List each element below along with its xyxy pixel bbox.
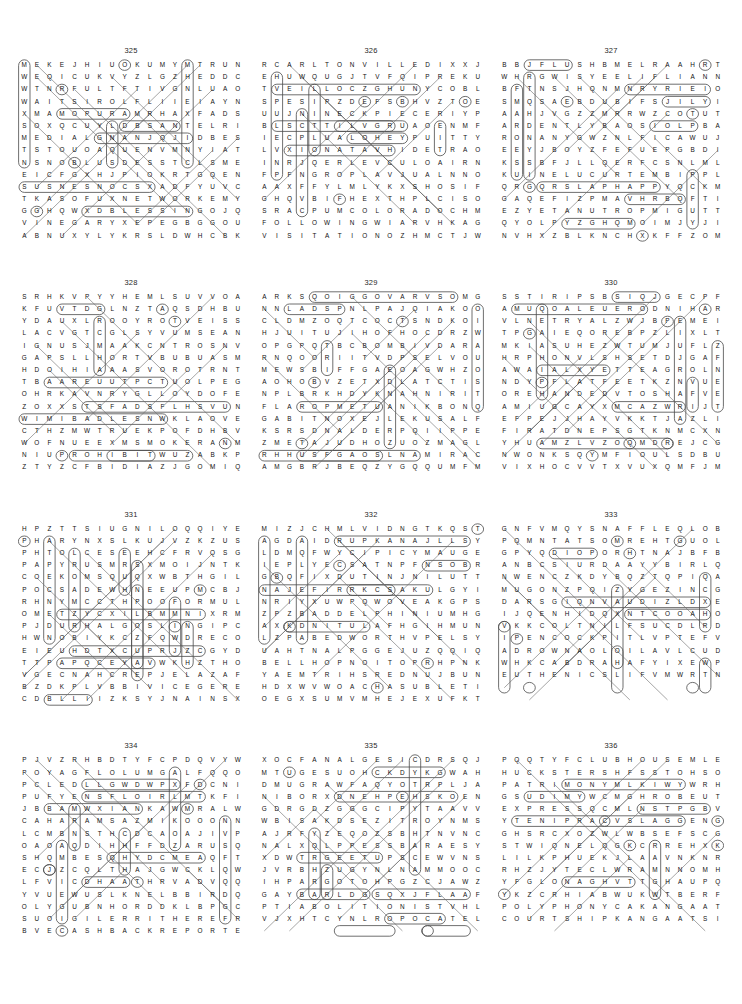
letter-cell[interactable]: J [144, 132, 157, 144]
letter-cell[interactable]: G [68, 913, 81, 925]
letter-cell[interactable]: B [536, 157, 549, 169]
letter-cell[interactable]: V [271, 83, 284, 95]
letter-cell[interactable]: I [548, 327, 561, 339]
letter-cell[interactable]: H [271, 71, 284, 83]
letter-cell[interactable]: F [384, 71, 397, 83]
letter-cell[interactable]: V [346, 693, 359, 705]
letter-cell[interactable]: A [446, 803, 459, 815]
letter-cell[interactable]: O [18, 608, 31, 620]
letter-cell[interactable]: F [686, 461, 699, 473]
letter-cell[interactable]: I [434, 132, 447, 144]
letter-cell[interactable]: D [271, 681, 284, 693]
letter-cell[interactable]: B [206, 449, 219, 461]
letter-cell[interactable]: G [624, 425, 637, 437]
letter-cell[interactable]: H [271, 449, 284, 461]
letter-cell[interactable]: O [471, 193, 484, 205]
letter-cell[interactable]: W [156, 413, 169, 425]
letter-cell[interactable]: O [396, 779, 409, 791]
letter-cell[interactable]: M [296, 669, 309, 681]
letter-cell[interactable]: C [18, 693, 31, 705]
letter-cell[interactable]: A [434, 840, 447, 852]
letter-cell[interactable]: C [346, 340, 359, 352]
letter-cell[interactable]: R [308, 791, 321, 803]
letter-cell[interactable]: F [699, 547, 712, 559]
letter-cell[interactable]: T [459, 681, 472, 693]
letter-cell[interactable]: W [471, 230, 484, 242]
letter-cell[interactable]: T [711, 401, 724, 413]
letter-cell[interactable]: E [371, 754, 384, 766]
letter-cell[interactable]: U [371, 852, 384, 864]
letter-cell[interactable]: N [523, 315, 536, 327]
letter-cell[interactable]: N [548, 132, 561, 144]
letter-cell[interactable]: Z [321, 803, 334, 815]
letter-cell[interactable]: B [396, 828, 409, 840]
letter-cell[interactable]: H [81, 754, 94, 766]
letter-cell[interactable]: N [68, 669, 81, 681]
letter-cell[interactable]: X [258, 754, 271, 766]
letter-cell[interactable]: P [636, 327, 649, 339]
letter-cell[interactable]: M [699, 864, 712, 876]
letter-cell[interactable]: A [118, 876, 131, 888]
letter-cell[interactable]: S [434, 559, 447, 571]
letter-cell[interactable]: N [471, 157, 484, 169]
letter-cell[interactable]: P [346, 596, 359, 608]
letter-cell[interactable]: Q [68, 840, 81, 852]
letter-cell[interactable]: P [283, 876, 296, 888]
letter-cell[interactable]: R [611, 169, 624, 181]
letter-cell[interactable]: I [271, 523, 284, 535]
letter-cell[interactable]: C [686, 425, 699, 437]
letter-cell[interactable]: C [144, 828, 157, 840]
letter-cell[interactable]: B [118, 449, 131, 461]
letter-cell[interactable]: A [271, 889, 284, 901]
letter-cell[interactable]: G [321, 852, 334, 864]
letter-cell[interactable]: J [711, 132, 724, 144]
letter-cell[interactable]: M [271, 779, 284, 791]
letter-cell[interactable]: E [459, 913, 472, 925]
letter-cell[interactable]: R [511, 388, 524, 400]
letter-cell[interactable]: I [131, 681, 144, 693]
letter-cell[interactable]: U [396, 437, 409, 449]
letter-cell[interactable]: I [333, 669, 346, 681]
letter-cell[interactable]: M [358, 693, 371, 705]
letter-cell[interactable]: D [231, 645, 244, 657]
letter-cell[interactable]: Y [434, 815, 447, 827]
letter-cell[interactable]: E [283, 83, 296, 95]
letter-cell[interactable]: N [446, 169, 459, 181]
letter-cell[interactable]: H [144, 547, 157, 559]
letter-cell[interactable]: S [296, 96, 309, 108]
letter-cell[interactable]: O [384, 230, 397, 242]
letter-cell[interactable]: E [384, 645, 397, 657]
letter-cell[interactable]: B [194, 901, 207, 913]
letter-cell[interactable]: T [446, 230, 459, 242]
letter-cell[interactable]: E [636, 364, 649, 376]
letter-cell[interactable]: I [194, 608, 207, 620]
letter-cell[interactable]: Z [661, 596, 674, 608]
letter-cell[interactable]: O [548, 303, 561, 315]
letter-cell[interactable]: H [649, 535, 662, 547]
letter-cell[interactable]: R [131, 901, 144, 913]
letter-cell[interactable]: T [661, 535, 674, 547]
letter-cell[interactable]: R [18, 596, 31, 608]
letter-cell[interactable]: S [686, 828, 699, 840]
letter-cell[interactable]: G [206, 645, 219, 657]
letter-cell[interactable]: V [686, 376, 699, 388]
letter-cell[interactable]: A [536, 340, 549, 352]
letter-cell[interactable]: P [598, 913, 611, 925]
letter-cell[interactable]: A [296, 876, 309, 888]
letter-cell[interactable]: J [536, 864, 549, 876]
letter-cell[interactable]: A [459, 889, 472, 901]
letter-cell[interactable]: F [231, 669, 244, 681]
letter-cell[interactable]: X [611, 461, 624, 473]
letter-cell[interactable]: Q [674, 523, 687, 535]
letter-cell[interactable]: A [498, 303, 511, 315]
letter-cell[interactable]: I [446, 193, 459, 205]
letter-cell[interactable]: Q [523, 608, 536, 620]
letter-cell[interactable]: X [699, 840, 712, 852]
letter-cell[interactable]: G [498, 828, 511, 840]
letter-cell[interactable]: N [586, 779, 599, 791]
letter-cell[interactable]: A [358, 559, 371, 571]
letter-cell[interactable]: V [611, 413, 624, 425]
letter-cell[interactable]: B [649, 315, 662, 327]
letter-cell[interactable]: P [68, 681, 81, 693]
letter-cell[interactable]: I [296, 230, 309, 242]
